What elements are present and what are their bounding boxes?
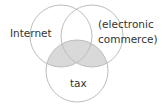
internet-label: Internet <box>10 27 52 39</box>
ecommerce-label-line2: commerce) <box>98 33 158 45</box>
venn-diagram: Internet (electronic commerce) tax <box>0 0 163 108</box>
ecommerce-label-line1: (electronic <box>98 18 154 30</box>
tax-label: tax <box>70 77 87 89</box>
